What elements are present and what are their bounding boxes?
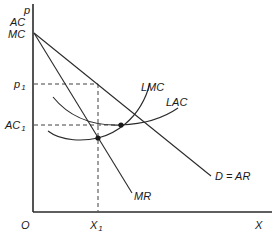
y-axis-label-mc: MC xyxy=(8,28,25,40)
mr-curve xyxy=(34,33,132,193)
lac-label: LAC xyxy=(166,96,187,108)
origin-label: O xyxy=(21,219,30,231)
x-axis-label: X xyxy=(254,219,263,231)
demand-label: D = AR xyxy=(215,170,250,182)
lac-tangency-dot xyxy=(118,122,123,127)
monopoly-diagram: p AC MC p1 AC1 LMC LAC D = AR MR O X1 X xyxy=(0,0,276,236)
lmc-curve xyxy=(48,83,150,140)
lac-curve xyxy=(53,97,178,125)
lmc-label: LMC xyxy=(141,81,164,93)
y-axis-label-ac: AC xyxy=(9,16,25,28)
y-axis-label-p: p xyxy=(23,4,30,16)
x1-label: X1 xyxy=(89,219,103,233)
mr-label: MR xyxy=(134,190,151,202)
ac1-label: AC1 xyxy=(4,119,26,133)
mr-lmc-intersection-dot xyxy=(95,135,100,140)
p1-label: p1 xyxy=(13,78,26,92)
